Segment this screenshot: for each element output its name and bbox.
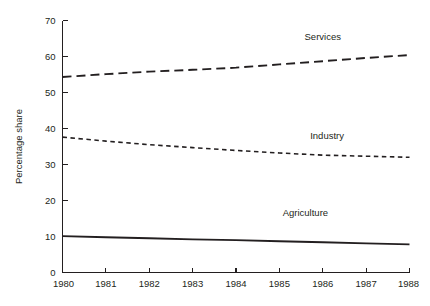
y-tick-label-10: 10 <box>45 231 56 242</box>
series-label-agriculture: Agriculture <box>283 207 328 218</box>
y-tick-label-20: 20 <box>45 195 56 206</box>
series-label-services: Services <box>305 31 342 42</box>
x-tick-label-1988: 1988 <box>398 278 419 289</box>
y-tick-label-60: 60 <box>45 51 56 62</box>
y-tick-label-0: 0 <box>50 267 55 278</box>
y-tick-label-50: 50 <box>45 87 56 98</box>
x-tick-label-1981: 1981 <box>95 278 116 289</box>
y-tick-label-40: 40 <box>45 123 56 134</box>
x-tick-label-1983: 1983 <box>182 278 203 289</box>
x-tick-label-1984: 1984 <box>225 278 246 289</box>
y-tick-label-30: 30 <box>45 159 56 170</box>
chart-figure: 010203040506070 198019811982198319841985… <box>0 0 430 306</box>
x-tick-label-1980: 1980 <box>53 278 74 289</box>
x-tick-label-1985: 1985 <box>269 278 290 289</box>
y-axis-title: Percentage share <box>13 109 24 184</box>
y-tick-label-70: 70 <box>45 15 56 26</box>
x-tick-label-1982: 1982 <box>139 278 160 289</box>
x-tick-label-1986: 1986 <box>312 278 333 289</box>
line-chart: 010203040506070 198019811982198319841985… <box>0 0 430 306</box>
chart-background <box>0 0 430 306</box>
series-label-industry: Industry <box>310 130 344 141</box>
x-tick-label-1987: 1987 <box>356 278 377 289</box>
